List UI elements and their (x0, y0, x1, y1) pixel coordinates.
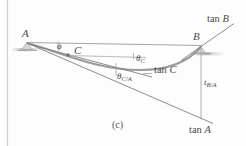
point-label-b: B (193, 31, 200, 42)
tangent-label-c: tan C (154, 65, 176, 76)
tan-b-word: tan (207, 13, 222, 24)
point-c-marker (66, 53, 69, 56)
tangent-line-c (30, 45, 152, 78)
deviation-label-tba: tB/A (204, 72, 216, 88)
figure-caption: (c) (112, 120, 123, 130)
undeflected-beam-axis (27, 43, 201, 46)
angle-label-theta-c: θC (136, 48, 145, 64)
figure-panel-c: A B C ϕ θC θC/A tan C tan B tan A tB/A (… (0, 0, 246, 146)
tan-c-point: C (169, 64, 176, 75)
tan-a-point: A (204, 124, 210, 135)
tan-a-word: tan (189, 124, 204, 135)
point-label-a: A (22, 28, 29, 39)
theta-ca-subscript: C/A (121, 75, 131, 82)
angle-label-phi: ϕ (57, 42, 62, 51)
t-subscript: B/A (207, 81, 217, 88)
tangent-line-a (27, 43, 213, 124)
theta-c-subscript: C (140, 57, 144, 64)
tangent-label-b: tan B (207, 14, 229, 25)
angle-label-theta-c-over-a: θC/A (117, 66, 132, 82)
tan-b-point: B (222, 13, 228, 24)
tan-c-word: tan (154, 64, 169, 75)
tangent-label-a: tan A (189, 125, 211, 136)
point-label-c: C (74, 45, 81, 56)
